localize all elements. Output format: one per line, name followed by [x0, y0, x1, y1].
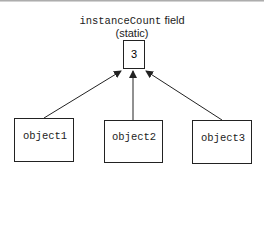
object2-box: object2	[104, 120, 163, 163]
object2-label: object2	[112, 131, 156, 143]
object3-box: object3	[192, 120, 252, 164]
arrow-object3	[146, 71, 222, 120]
object1-label: object1	[23, 130, 67, 142]
arrow-object1	[44, 71, 121, 118]
object3-label: object3	[201, 132, 245, 144]
object1-box: object1	[14, 118, 74, 162]
